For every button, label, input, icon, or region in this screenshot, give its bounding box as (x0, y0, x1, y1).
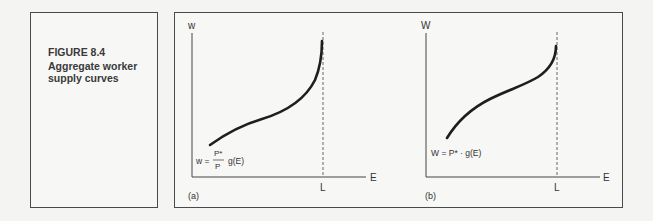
panel-b-y-label: W (421, 20, 431, 31)
panel-b-x-label: E (603, 172, 610, 183)
panel-a: w E L w = P* P g(E) (a) (187, 20, 377, 201)
panel-a-formula-rhs: g(E) (228, 156, 244, 166)
panel-a-formula-den: P (215, 162, 220, 171)
panel-a-supply-curve (210, 41, 322, 145)
panel-b-formula: W = P* · g(E) (431, 148, 481, 158)
panel-b-L-label: L (554, 182, 560, 193)
panel-a-L-label: L (320, 182, 326, 193)
panel-b-label: (b) (425, 191, 436, 201)
panel-a-label: (a) (188, 191, 199, 201)
diagram-canvas: w E L w = P* P g(E) (a) W E L W = P* · g… (0, 0, 653, 221)
panel-b-supply-curve (447, 46, 556, 138)
panel-a-x-label: E (370, 172, 377, 183)
panel-a-formula-lhs: w = (195, 156, 210, 166)
panel-a-y-label: w (187, 20, 196, 31)
panel-b: W E L W = P* · g(E) (b) (421, 20, 610, 201)
panel-a-formula-num: P* (214, 149, 222, 158)
